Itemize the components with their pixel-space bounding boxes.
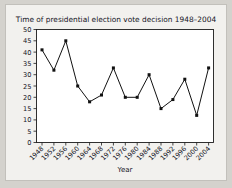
y-tick-label: 5	[27, 128, 31, 136]
y-tick-label: 45	[23, 37, 31, 45]
x-tick-label: 2004	[194, 145, 212, 163]
y-tick-45: 45	[23, 37, 36, 45]
y-axis: 0 5 10 15 20	[23, 26, 36, 147]
y-tick-20: 20	[23, 94, 36, 102]
data-point	[76, 85, 79, 88]
line-chart: Time of presidential election vote decis…	[6, 5, 226, 180]
y-tick-0: 0	[27, 139, 36, 147]
y-tick-label: 0	[27, 139, 31, 147]
data-point	[195, 114, 198, 117]
data-point	[41, 48, 44, 51]
y-tick-label: 40	[23, 49, 31, 57]
y-tick-25: 25	[23, 83, 36, 91]
y-tick-label: 50	[23, 26, 31, 34]
y-tick-35: 35	[23, 60, 36, 68]
data-point	[148, 73, 151, 76]
chart-title: Time of presidential election vote decis…	[15, 15, 217, 24]
y-tick-15: 15	[23, 105, 36, 113]
y-tick-label: 35	[23, 60, 31, 68]
y-tick-label: 10	[23, 116, 31, 124]
data-point	[64, 39, 67, 42]
y-tick-label: 30	[23, 71, 31, 79]
x-axis: 1948 1952 1956 1960 1964	[28, 143, 212, 163]
x-axis-label: Year	[117, 166, 133, 174]
chart-canvas: Time of presidential election vote decis…	[6, 5, 226, 180]
y-tick-5: 5	[27, 128, 36, 136]
y-tick-10: 10	[23, 116, 36, 124]
figure-container: Time of presidential election vote decis…	[0, 0, 232, 188]
y-tick-40: 40	[23, 49, 36, 57]
data-point	[88, 100, 91, 103]
y-tick-50: 50	[23, 26, 36, 34]
data-point	[112, 66, 115, 69]
data-point	[124, 96, 127, 99]
y-tick-30: 30	[23, 71, 36, 79]
y-tick-label: 25	[23, 83, 31, 91]
y-tick-label: 20	[23, 94, 31, 102]
data-point	[207, 66, 210, 69]
data-point	[100, 94, 103, 97]
data-point	[136, 96, 139, 99]
data-point	[160, 107, 163, 110]
data-point	[171, 98, 174, 101]
y-tick-label: 15	[23, 105, 31, 113]
data-point	[183, 78, 186, 81]
data-point	[52, 69, 55, 72]
